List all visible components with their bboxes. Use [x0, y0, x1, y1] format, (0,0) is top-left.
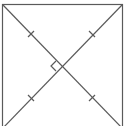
- square-diagonals-diagram: [0, 0, 125, 126]
- tick-mark-bottom-right: [89, 95, 95, 101]
- tick-mark-bottom-left: [28, 95, 34, 101]
- right-angle-marker: [51, 61, 56, 71]
